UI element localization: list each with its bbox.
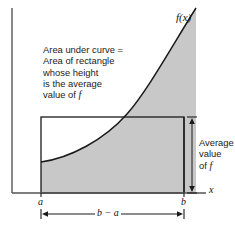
callout-line-4: is the average [43,78,148,89]
average-label-line-1: Average [199,137,235,148]
callout-line-3: whose height [43,67,148,78]
average-value-figure: Area under curve = Area of rectangle who… [0,0,235,225]
average-value-label: Average value of f [199,137,235,171]
figure-canvas [0,0,235,225]
shaded-area-under-curve [41,8,196,193]
callout-line-1: Area under curve = [43,44,148,55]
callout-f-symbol: f [78,89,81,100]
callout-line-5-text: value of [43,89,78,100]
curve-label-fx: f(x) [176,11,191,23]
tick-label-b: b [181,196,186,207]
average-label-line-3-text: of [199,160,209,171]
width-label-b-minus-a: b − a [95,207,121,218]
callout-line-2: Area of rectangle [43,55,148,66]
callout-text-block: Area under curve = Area of rectangle who… [43,44,148,100]
width-arrowhead-left [42,211,48,217]
average-label-f-symbol: f [209,160,212,171]
average-label-line-2: value [199,148,235,159]
x-axis-label: x [209,184,213,195]
average-label-line-3: of f [199,160,235,171]
callout-line-5: value of f [43,89,148,100]
width-arrowhead-right [177,211,183,217]
tick-label-a: a [38,196,43,207]
